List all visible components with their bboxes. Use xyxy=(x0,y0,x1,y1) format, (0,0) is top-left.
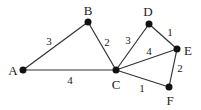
edge-cd xyxy=(116,24,149,70)
node-d xyxy=(146,21,153,28)
node-a xyxy=(20,67,27,74)
node-c xyxy=(113,67,120,74)
edge-ef xyxy=(169,49,177,87)
node-label-d: D xyxy=(143,4,152,19)
edge-bc xyxy=(88,22,116,70)
edge-weight-ac: 4 xyxy=(67,74,73,86)
edge-weight-ab: 3 xyxy=(46,35,52,47)
node-label-c: C xyxy=(112,77,121,92)
edge-de xyxy=(149,24,177,49)
edge-weight-bc: 2 xyxy=(104,36,110,48)
edge-weight-de: 1 xyxy=(167,26,173,38)
weighted-graph-diagram: 32434121ABCDEF xyxy=(0,0,201,110)
node-e xyxy=(174,46,181,53)
node-label-e: E xyxy=(184,43,192,58)
node-label-f: F xyxy=(166,93,173,108)
edge-weight-cf: 1 xyxy=(139,82,145,94)
edge-weight-ce: 4 xyxy=(146,45,152,57)
edges xyxy=(23,22,177,87)
node-label-b: B xyxy=(84,3,93,18)
edge-weight-cd: 3 xyxy=(125,34,131,46)
node-b xyxy=(85,19,92,26)
edge-ab xyxy=(23,22,88,70)
node-f xyxy=(166,84,173,91)
node-label-a: A xyxy=(8,63,18,78)
labels: 32434121ABCDEF xyxy=(8,3,192,108)
edge-weight-ef: 2 xyxy=(177,62,183,74)
